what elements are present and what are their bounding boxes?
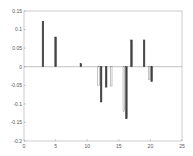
bar-series-dark-4 bbox=[105, 67, 107, 87]
bar-series-dark-8 bbox=[151, 67, 153, 82]
bar-series-dark-3 bbox=[100, 67, 102, 102]
y-tick-label: 0.15 bbox=[12, 8, 22, 14]
y-tick-label: 0 bbox=[19, 64, 22, 70]
y-tick-label: -0.1 bbox=[13, 101, 22, 107]
y-tick-label: -0.05 bbox=[11, 82, 23, 88]
x-tick-label: 15 bbox=[116, 143, 122, 149]
y-tick-label: -0.15 bbox=[11, 119, 23, 125]
bar-series-light-2 bbox=[123, 67, 125, 112]
y-tick-label: 0.05 bbox=[12, 45, 22, 51]
y-tick-label: -0.2 bbox=[13, 138, 22, 144]
x-tick-label: 25 bbox=[179, 143, 185, 149]
y-tick-label: 0.1 bbox=[15, 26, 22, 32]
bar-series-light-1 bbox=[110, 67, 112, 86]
bar-series-dark-0 bbox=[42, 21, 44, 66]
bar-series-dark-2 bbox=[80, 64, 82, 67]
bar-series-dark-6 bbox=[131, 40, 133, 67]
bar-series-dark-1 bbox=[55, 37, 57, 67]
bar-series-dark-7 bbox=[143, 40, 145, 67]
x-tick-label: 5 bbox=[54, 143, 57, 149]
x-tick-label: 0 bbox=[23, 143, 26, 149]
y-axis: 0.150.10.050-0.05-0.1-0.15-0.2 bbox=[11, 8, 26, 144]
plot-area bbox=[24, 11, 182, 141]
bar-series-light-3 bbox=[148, 67, 150, 80]
bar-chart: 0510152025 0.150.10.050-0.05-0.1-0.15-0.… bbox=[0, 0, 193, 156]
bar-series-light-0 bbox=[98, 67, 100, 86]
x-tick-label: 10 bbox=[84, 143, 90, 149]
x-tick-label: 20 bbox=[148, 143, 154, 149]
bar-series-dark-5 bbox=[126, 67, 128, 119]
